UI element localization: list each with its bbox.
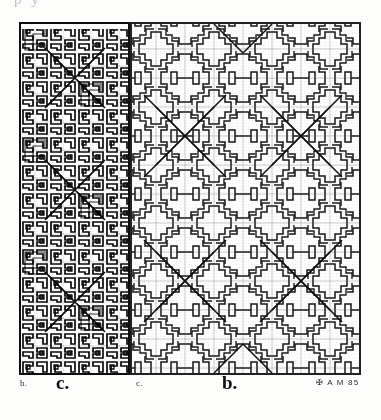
running-header-text: p y [14,0,42,8]
pattern-plate [19,22,361,375]
light-pattern-svg [132,24,359,373]
caption-c-small: c. [136,378,143,388]
artist-signature: ✠ A M 85 [316,378,359,387]
caption-row: b. c. c. b. ✠ A M 85 [0,376,381,402]
plate-page: p y [0,0,381,420]
scan-highlight-wash [21,24,130,29]
dense-pattern-svg [21,24,128,373]
running-header-strip: p y [0,0,381,18]
caption-b-large: b. [222,372,237,394]
panel-light-pattern [130,22,361,375]
panel-dense-pattern [19,22,130,375]
caption-c-large: c. [56,372,69,394]
caption-b-small: b. [20,378,27,388]
